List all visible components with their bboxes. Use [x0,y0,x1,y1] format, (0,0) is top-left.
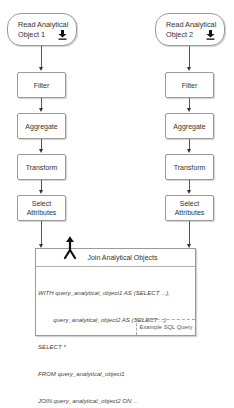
join-analytical-objects: Join Analytical Objects WITH query_analy… [35,248,196,336]
arrow-head [187,149,191,153]
read-object-1-line1: Read Analytical [18,20,68,30]
step-label: Aggregate [173,122,205,131]
step-label-line1: Select [175,199,205,208]
connector [189,221,190,244]
join-title: Join Analytical Objects [73,254,157,261]
step-aggregate-2: Aggregate [165,113,214,139]
download-icon [206,30,215,40]
arrow-head [39,67,43,71]
step-select-attributes-1: Select Attributes [17,195,66,221]
step-transform-1: Transform [17,154,66,180]
step-label-line2: Attributes [27,208,57,217]
step-label: Transform [174,163,206,172]
read-analytical-object-1: Read Analytical Object 1 [7,13,77,46]
arrow-head [187,190,191,194]
step-label-line2: Attributes [175,208,205,217]
read-analytical-object-2: Read Analytical Object 2 [155,13,225,46]
step-label: Transform [26,163,58,172]
step-label-line1: Select [27,199,57,208]
step-transform-2: Transform [165,154,214,180]
step-select-attributes-2: Select Attributes [165,195,214,221]
arrow-head [187,108,191,112]
join-header: Join Analytical Objects [36,249,195,267]
step-label: Filter [182,81,198,90]
sql-line: FROM query_analytical_object1 [38,369,195,378]
arrow-head [39,108,43,112]
arrow-head [187,67,191,71]
connector [41,221,42,244]
step-label: Aggregate [25,122,57,131]
example-sql-query-annotation: Example SQL Query [136,319,195,335]
connector [41,46,42,68]
sql-line: JOIN query_analytical_object2 ON ... [38,396,195,405]
sql-line: SELECT * [38,342,195,351]
arrow-head [39,149,43,153]
arrow-head [39,190,43,194]
read-object-2-line1: Read Analytical [166,20,216,30]
step-filter-1: Filter [17,72,66,98]
merge-icon [63,236,77,260]
sql-example: WITH query_analytical_object1 AS (SELECT… [36,267,195,408]
sql-line: WITH query_analytical_object1 AS (SELECT… [38,288,195,297]
download-icon [58,30,67,40]
step-aggregate-1: Aggregate [17,113,66,139]
step-filter-2: Filter [165,72,214,98]
step-label: Filter [34,81,50,90]
connector [189,46,190,68]
